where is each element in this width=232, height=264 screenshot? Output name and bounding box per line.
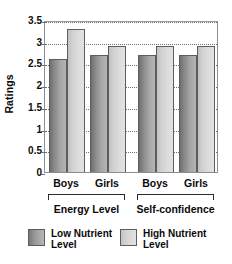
y-tick-label: 0.5 (14, 146, 42, 156)
category-label: Boys (44, 177, 88, 189)
category-labels: BoysGirlsBoysGirls (44, 177, 218, 191)
y-axis-tick-labels: 3.532.521.510.50 (14, 16, 42, 178)
bar-chart: Ratings 3.532.521.510.50 BoysGirlsBoysGi… (0, 0, 232, 264)
legend-swatch-high-nutrient (120, 229, 137, 246)
legend-item: High Nutrient Level (120, 228, 206, 250)
bar (197, 46, 215, 172)
y-tick-label: 2 (14, 81, 42, 91)
bar (156, 46, 174, 172)
bar (108, 46, 126, 172)
bar (138, 55, 156, 172)
group-bracket (137, 194, 214, 200)
y-tick-label: 1 (14, 125, 42, 135)
y-tick-label: 1.5 (14, 103, 42, 113)
legend-label: High Nutrient Level (143, 228, 206, 250)
category-label: Girls (85, 177, 129, 189)
legend-item: Low Nutrient Level (28, 228, 112, 250)
group-labels: Energy LevelSelf-confidence (30, 203, 230, 217)
bar (67, 29, 85, 172)
legend-swatch-low-nutrient (28, 229, 45, 246)
y-tick-label: 0 (14, 168, 42, 178)
y-tick-label: 3 (14, 38, 42, 48)
bars-layer (45, 22, 217, 172)
plot-area (44, 21, 218, 173)
legend-label: Low Nutrient Level (51, 228, 112, 250)
category-label: Boys (133, 177, 177, 189)
y-tick-label: 3.5 (14, 16, 42, 26)
bar (90, 55, 108, 172)
y-tick-label: 2.5 (14, 59, 42, 69)
bar (49, 59, 67, 172)
chart-legend: Low Nutrient LevelHigh Nutrient Level (0, 226, 232, 260)
bar (179, 55, 197, 172)
group-label: Self-confidence (126, 203, 226, 215)
category-label: Girls (174, 177, 218, 189)
y-axis-tick-mark (41, 174, 45, 175)
group-bracket (48, 194, 125, 200)
group-label: Energy Level (37, 203, 137, 215)
